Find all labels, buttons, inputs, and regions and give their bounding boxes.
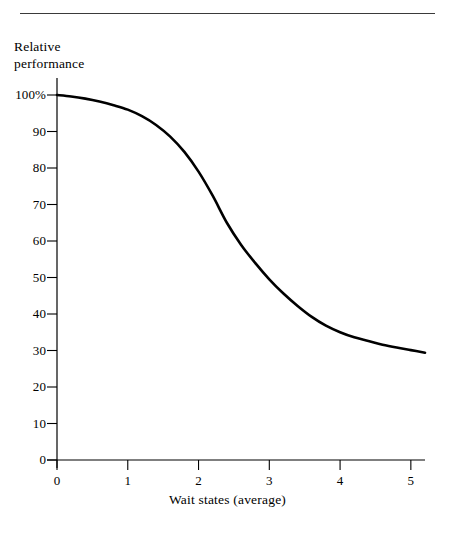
y-tick-label: 90 xyxy=(0,124,46,140)
figure-container: Relative performance 0102030405060708090… xyxy=(0,0,455,537)
x-tick-label: 2 xyxy=(184,473,214,489)
x-tick-label: 1 xyxy=(113,473,143,489)
chart-plot-area xyxy=(0,0,455,537)
y-tick-label: 20 xyxy=(0,379,46,395)
y-tick-label: 100% xyxy=(0,87,46,103)
x-tick-label: 0 xyxy=(42,473,72,489)
y-tick-label: 0 xyxy=(0,452,46,468)
y-axis-ticks xyxy=(47,95,57,460)
y-tick-label: 60 xyxy=(0,233,46,249)
y-tick-label: 70 xyxy=(0,197,46,213)
y-tick-label: 80 xyxy=(0,160,46,176)
axes-group xyxy=(47,78,425,468)
y-tick-label: 50 xyxy=(0,270,46,286)
x-axis-title: Wait states (average) xyxy=(0,492,455,508)
x-tick-label: 5 xyxy=(396,473,426,489)
x-tick-label: 4 xyxy=(325,473,355,489)
y-tick-label: 30 xyxy=(0,343,46,359)
x-tick-label: 3 xyxy=(254,473,284,489)
y-tick-label: 40 xyxy=(0,306,46,322)
y-tick-label: 10 xyxy=(0,416,46,432)
x-axis-ticks xyxy=(57,460,411,470)
performance-curve xyxy=(57,95,425,353)
